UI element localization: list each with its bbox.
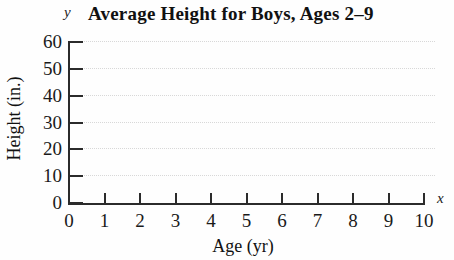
plot-area: 0102030405060 012345678910 <box>68 41 425 205</box>
y-tick: 50 <box>68 68 83 70</box>
gridline <box>70 175 435 177</box>
y-tick-mark <box>70 68 83 70</box>
x-tick: 0 <box>68 203 70 205</box>
x-tick-mark <box>317 193 319 205</box>
x-tick: 1 <box>104 203 106 205</box>
x-tick-label: 4 <box>206 210 216 232</box>
x-tick: 8 <box>352 203 354 205</box>
x-tick: 4 <box>210 203 212 205</box>
y-tick-mark <box>70 148 83 150</box>
y-tick: 60 <box>68 41 83 43</box>
x-tick: 3 <box>175 203 177 205</box>
y-tick-label: 20 <box>43 138 62 160</box>
y-axis-title: Height (in.) <box>4 59 25 179</box>
x-tick: 9 <box>388 203 390 205</box>
gridline <box>70 68 435 70</box>
x-tick-mark <box>352 193 354 205</box>
x-tick: 5 <box>246 203 248 205</box>
chart-title: Average Height for Boys, Ages 2–9 <box>88 3 428 25</box>
x-tick: 7 <box>317 203 319 205</box>
y-tick: 0 <box>68 202 83 204</box>
x-tick-mark <box>388 193 390 205</box>
y-tick-label: 30 <box>43 112 62 134</box>
x-tick-label: 9 <box>384 210 394 232</box>
x-tick-label: 7 <box>313 210 323 232</box>
y-tick: 10 <box>68 175 83 177</box>
y-tick: 30 <box>68 122 83 124</box>
y-tick-label: 60 <box>43 31 62 53</box>
gridline <box>70 41 435 43</box>
x-axis-title: Age (yr) <box>178 236 308 257</box>
y-tick-label: 0 <box>53 192 63 214</box>
x-tick-label: 6 <box>277 210 287 232</box>
y-tick-label: 40 <box>43 85 62 107</box>
y-tick-mark <box>70 95 83 97</box>
x-tick: 10 <box>423 203 425 205</box>
x-tick-mark <box>175 193 177 205</box>
x-tick-label: 0 <box>64 210 74 232</box>
chart-figure: Average Height for Boys, Ages 2–9 y x He… <box>0 0 454 260</box>
gridline <box>70 95 435 97</box>
y-tick: 20 <box>68 148 83 150</box>
x-tick-mark <box>423 193 425 205</box>
y-tick-mark <box>70 122 83 124</box>
y-tick-label: 50 <box>43 58 62 80</box>
x-tick: 6 <box>281 203 283 205</box>
y-tick-mark <box>70 175 83 177</box>
x-tick-mark <box>246 193 248 205</box>
y-tick-mark <box>70 202 83 204</box>
x-tick-label: 1 <box>100 210 110 232</box>
y-axis-letter: y <box>64 4 71 21</box>
x-tick-label: 5 <box>242 210 252 232</box>
y-tick-mark <box>70 41 83 43</box>
x-tick-mark <box>281 193 283 205</box>
x-tick-mark <box>139 193 141 205</box>
x-tick-label: 3 <box>171 210 181 232</box>
x-tick-label: 8 <box>348 210 358 232</box>
x-axis-letter: x <box>437 190 444 207</box>
x-tick: 2 <box>139 203 141 205</box>
y-tick: 40 <box>68 95 83 97</box>
x-tick-mark <box>68 193 70 205</box>
x-tick-mark <box>210 193 212 205</box>
y-tick-label: 10 <box>43 165 62 187</box>
x-tick-label: 2 <box>135 210 145 232</box>
x-tick-label: 10 <box>415 210 434 232</box>
gridline <box>70 148 435 150</box>
x-tick-mark <box>104 193 106 205</box>
gridline <box>70 122 435 124</box>
